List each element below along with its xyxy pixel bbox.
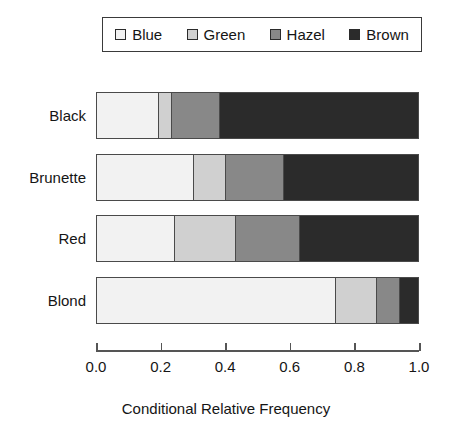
bar-row [96,277,419,324]
x-axis-tick [96,343,98,351]
x-axis-tick-label: 0.0 [71,358,121,375]
bar-segment-brown [399,278,418,323]
bar-segment-blue [97,278,335,323]
category-label-red: Red [0,215,86,262]
category-label-black: Black [0,92,86,139]
bar-segment-hazel [235,216,299,261]
legend-swatch-blue [115,29,126,40]
bar-segment-green [335,278,377,323]
legend-label-blue: Blue [132,27,162,42]
legend-entry-green: Green [187,27,246,42]
bar-segment-blue [97,155,193,200]
x-axis-line [96,350,419,352]
bar-segment-green [193,155,225,200]
legend-label-green: Green [204,27,246,42]
bar-segment-green [158,93,171,138]
plot-area [96,92,419,344]
legend-entry-blue: Blue [115,27,162,42]
bar-segment-brown [219,93,418,138]
bar-segment-hazel [376,278,398,323]
x-axis-tick [225,343,227,351]
legend-label-hazel: Hazel [287,27,325,42]
legend-entry-brown: Brown [349,27,409,42]
x-axis-tick [419,343,421,351]
stacked-bar-chart: Blue Green Hazel Brown BlackBrunetteRedB… [0,0,452,440]
x-axis-tick [290,343,292,351]
x-axis-tick-label: 0.6 [265,358,315,375]
x-axis-tick [161,343,163,351]
category-label-blond: Blond [0,277,86,324]
x-axis-tick-label: 0.2 [136,358,186,375]
x-axis: 0.00.20.40.60.81.0 [96,350,419,352]
bar-segment-brown [299,216,418,261]
bar-segment-hazel [225,155,283,200]
legend-label-brown: Brown [366,27,409,42]
x-axis-tick-label: 1.0 [394,358,444,375]
category-label-brunette: Brunette [0,154,86,201]
bar-segment-blue [97,93,158,138]
legend-swatch-hazel [270,29,281,40]
x-axis-tick-label: 0.8 [329,358,379,375]
bar-segment-blue [97,216,174,261]
legend-swatch-green [187,29,198,40]
chart-legend: Blue Green Hazel Brown [102,17,422,52]
bar-segment-brown [283,155,418,200]
bar-segment-hazel [171,93,219,138]
x-axis-title: Conditional Relative Frequency [0,400,452,417]
bar-segment-green [174,216,235,261]
x-axis-tick [354,343,356,351]
legend-swatch-brown [349,29,360,40]
x-axis-tick-label: 0.4 [200,358,250,375]
bar-row [96,215,419,262]
legend-entry-hazel: Hazel [270,27,325,42]
bar-row [96,154,419,201]
bar-row [96,92,419,139]
